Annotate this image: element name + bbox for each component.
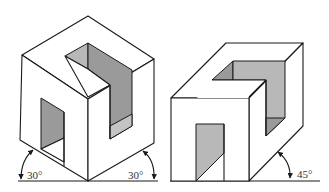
obl-angle-arc — [278, 152, 290, 178]
isometric-figure: 30° 30° — [18, 16, 158, 181]
projection-diagram: 30° 30° 45° — [0, 0, 329, 192]
iso-angle-right-label: 30° — [128, 169, 143, 181]
iso-angle-right-arc — [143, 151, 154, 179]
obl-angle-label: 45° — [297, 168, 312, 180]
oblique-figure: 45° — [170, 43, 320, 181]
iso-angle-left-label: 30° — [27, 169, 42, 181]
